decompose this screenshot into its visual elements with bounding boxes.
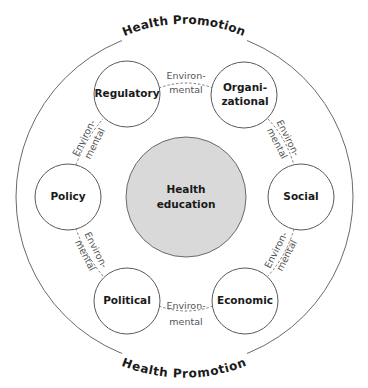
node-policy: Policy	[35, 164, 101, 230]
center-label-line1: Health	[166, 183, 205, 195]
node-economic-label: Economic	[217, 294, 273, 306]
node-organizational: Organi- zational	[211, 62, 277, 128]
edge-label-bottom-line1: Environ-	[166, 300, 205, 311]
center-label-line2: education	[157, 198, 216, 210]
node-economic: Economic	[212, 268, 278, 334]
node-regulatory: Regulatory	[94, 61, 160, 127]
node-political: Political	[94, 268, 160, 334]
center-node-health-education: Health education	[126, 137, 246, 257]
node-social-label: Social	[283, 190, 318, 202]
edge-label-top-line1: Environ-	[166, 70, 205, 81]
edge-label-top-line2: mental	[169, 84, 202, 95]
node-regulatory-label: Regulatory	[94, 87, 159, 99]
node-organizational-label-line1: Organi-	[223, 81, 267, 93]
node-social: Social	[268, 164, 334, 230]
health-promotion-diagram: Health Promotion Health Promotion Enviro…	[0, 0, 368, 388]
node-policy-label: Policy	[50, 190, 85, 202]
node-organizational-label-line2: zational	[221, 95, 268, 107]
node-political-label: Political	[103, 294, 151, 306]
edge-label-bottom-line2: mental	[169, 316, 202, 327]
